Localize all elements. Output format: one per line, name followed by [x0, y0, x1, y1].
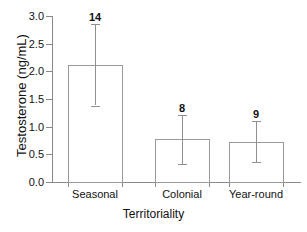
y-tick-0.5: [46, 154, 52, 155]
sample-size-colonial: 8: [179, 102, 185, 114]
sample-size-seasonal: 14: [89, 11, 101, 23]
y-tick-label-5: 2.5: [29, 38, 44, 50]
error-bar-cap-upper-seasonal: [91, 24, 100, 25]
y-tick-label-2: 1.0: [29, 121, 44, 133]
category-label-seasonal: Seasonal: [72, 188, 118, 200]
x-axis-title: Territoriality: [0, 207, 307, 221]
error-bar-cap-lower-seasonal: [91, 106, 100, 107]
y-tick-label-4: 2.0: [29, 65, 44, 77]
error-bar-line-seasonal: [95, 24, 96, 105]
category-label-year-round: Year-round: [229, 188, 283, 200]
y-tick-label-0: 0.0: [29, 176, 44, 188]
y-tick-3.0: [46, 16, 52, 17]
y-tick-2.0: [46, 71, 52, 72]
error-bar-line-colonial: [182, 115, 183, 164]
y-tick-label-6: 3.0: [29, 10, 44, 22]
y-tick-1.5: [46, 99, 52, 100]
y-tick-1.0: [46, 127, 52, 128]
error-bar-cap-upper-year-round: [252, 121, 261, 122]
y-tick-2.5: [46, 44, 52, 45]
y-tick-label-1: 0.5: [29, 148, 44, 160]
y-axis-title: Testosterone (ng/mL): [14, 11, 29, 181]
y-tick-0.0: [46, 182, 52, 183]
y-axis-line: [52, 16, 53, 183]
y-tick-label-3: 1.5: [29, 93, 44, 105]
error-bar-cap-upper-colonial: [178, 115, 187, 116]
error-bar-cap-lower-year-round: [252, 162, 261, 163]
category-label-colonial: Colonial: [162, 188, 202, 200]
sample-size-year-round: 9: [253, 108, 259, 120]
error-bar-cap-lower-colonial: [178, 164, 187, 165]
error-bar-line-year-round: [256, 121, 257, 162]
chart-figure: 3.0 2.5 2.0 1.5 1.0 0.5 0.0 14 Seasonal …: [0, 0, 307, 232]
